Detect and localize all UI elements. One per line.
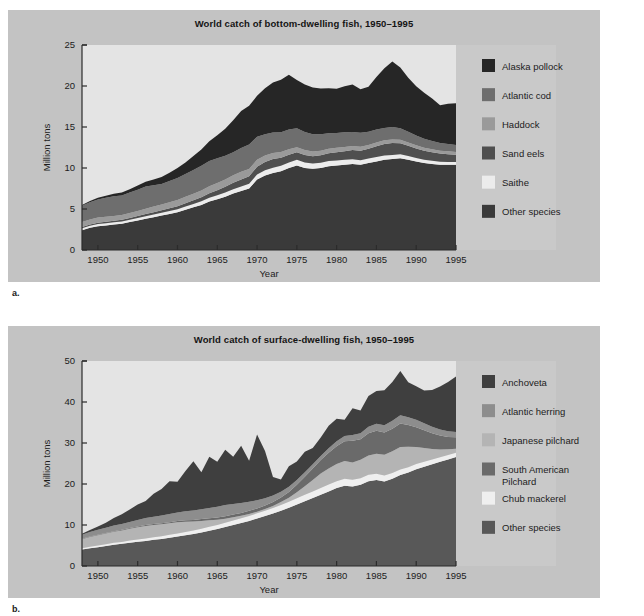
- x-tick-label: 1960: [167, 254, 188, 265]
- y-tick-label: 30: [64, 437, 75, 448]
- legend-label: Japanese pilchard: [502, 435, 579, 446]
- x-tick-label: 1985: [366, 254, 387, 265]
- chart-a-svg: 0510152025195019551960196519701975198019…: [8, 10, 600, 282]
- x-axis-title: Year: [259, 584, 278, 595]
- y-tick-label: 50: [64, 355, 75, 366]
- x-tick-label: 1975: [286, 254, 307, 265]
- legend-swatch: [482, 59, 495, 72]
- y-tick-label: 20: [64, 80, 75, 91]
- legend-swatch: [482, 88, 495, 101]
- legend-label: Haddock: [502, 119, 540, 130]
- x-tick-label: 1955: [127, 570, 148, 581]
- legend-label: Pilchard: [502, 476, 536, 487]
- x-tick-label: 1970: [246, 254, 267, 265]
- y-tick-label: 40: [64, 396, 75, 407]
- figure-page: World catch of bottom-dwelling fish, 195…: [0, 0, 644, 616]
- legend-swatch: [482, 404, 495, 417]
- legend-label: Saithe: [502, 177, 529, 188]
- x-tick-label: 1990: [406, 254, 427, 265]
- legend-label: Atlantic cod: [502, 90, 551, 101]
- legend-item: Anchoveta: [482, 375, 548, 388]
- legend-item: Alaska pollock: [482, 59, 563, 72]
- legend-swatch: [482, 147, 495, 160]
- x-tick-label: 1990: [406, 570, 427, 581]
- legend-swatch: [482, 117, 495, 130]
- chart-b-svg: 0102030405019501955196019651970197519801…: [8, 326, 600, 598]
- legend-label: Atlantic herring: [502, 406, 565, 417]
- x-tick-label: 1960: [167, 570, 188, 581]
- legend-swatch: [482, 375, 495, 388]
- legend-item: Sand eels: [482, 147, 545, 160]
- x-tick-label: 1950: [87, 570, 108, 581]
- x-tick-label: 1965: [207, 254, 228, 265]
- legend-swatch: [482, 205, 495, 218]
- legend-label: Alaska pollock: [502, 61, 563, 72]
- chart-b-plot: 0102030405019501955196019651970197519801…: [8, 326, 600, 598]
- x-tick-label: 1995: [445, 570, 466, 581]
- legend-swatch: [482, 433, 495, 446]
- legend-item: Atlantic herring: [482, 404, 565, 417]
- legend-label: Anchoveta: [502, 377, 548, 388]
- y-axis-title: Million tons: [41, 439, 52, 487]
- legend-swatch: [482, 492, 495, 505]
- legend-swatch: [482, 176, 495, 189]
- legend-item: Saithe: [482, 176, 529, 189]
- y-tick-label: 15: [64, 121, 75, 132]
- legend-swatch: [482, 463, 495, 476]
- y-tick-label: 10: [64, 162, 75, 173]
- x-axis-title: Year: [259, 268, 278, 279]
- panel-label-b: b.: [12, 604, 20, 614]
- x-tick-label: 1975: [286, 570, 307, 581]
- y-tick-label: 25: [64, 39, 75, 50]
- y-tick-label: 0: [70, 560, 75, 571]
- y-axis-title: Million tons: [41, 123, 52, 171]
- x-tick-label: 1970: [246, 570, 267, 581]
- x-tick-label: 1980: [326, 570, 347, 581]
- legend-item: Haddock: [482, 117, 540, 130]
- legend-label: Sand eels: [502, 148, 545, 159]
- legend-label: South American: [502, 464, 569, 475]
- x-tick-label: 1985: [366, 570, 387, 581]
- legend-item: Chub mackerel: [482, 492, 566, 505]
- legend-label: Other species: [502, 206, 561, 217]
- legend-item: Atlantic cod: [482, 88, 551, 101]
- x-tick-label: 1955: [127, 254, 148, 265]
- x-tick-label: 1995: [445, 254, 466, 265]
- legend-item: Other species: [482, 521, 561, 534]
- y-tick-label: 10: [64, 519, 75, 530]
- y-tick-label: 5: [70, 203, 75, 214]
- legend-swatch: [482, 521, 495, 534]
- y-tick-label: 20: [64, 478, 75, 489]
- legend-label: Other species: [502, 522, 561, 533]
- panel-label-a: a.: [12, 288, 20, 298]
- y-tick-label: 0: [70, 244, 75, 255]
- figure-panel-b: World catch of surface-dwelling fish, 19…: [8, 326, 600, 598]
- legend-item: Other species: [482, 205, 561, 218]
- x-tick-label: 1965: [207, 570, 228, 581]
- x-tick-label: 1980: [326, 254, 347, 265]
- legend-label: Chub mackerel: [502, 493, 566, 504]
- chart-a-plot: 0510152025195019551960196519701975198019…: [8, 10, 600, 282]
- figure-panel-a: World catch of bottom-dwelling fish, 195…: [8, 10, 600, 282]
- x-tick-label: 1950: [87, 254, 108, 265]
